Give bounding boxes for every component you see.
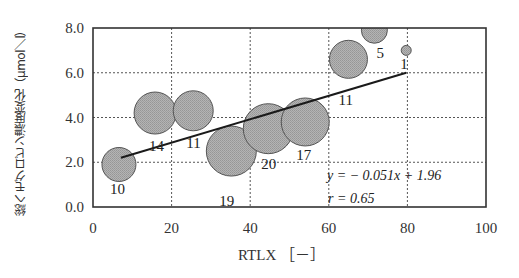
point-label: 19 [219,193,234,209]
bubble-point [173,91,213,131]
x-tick-label: 0 [89,220,97,236]
y-tick-label: 4.0 [65,110,84,126]
bubble-point [401,45,411,55]
regression-equation: y = − 0.051x + 1.96 [325,168,441,183]
y-tick-label: 2.0 [65,154,84,170]
x-tick-label: 40 [243,220,258,236]
point-label: 5 [376,45,384,61]
bubble-point [329,40,367,78]
bubble-point [361,17,387,43]
x-tick-label: 80 [400,220,415,236]
bubble-chart: 1014111920171151 0204060801000.02.04.06.… [0,0,519,278]
y-tick-label: 6.0 [65,65,84,81]
bubble-series [102,17,411,181]
y-axis-label: 総ヘモグロビン濃度変化（μmol／l） [12,28,34,216]
bubble-point [281,98,329,146]
y-tick-label: 8.0 [65,20,84,36]
regression-annotation: y = − 0.051x + 1.96 r = 0.65 [325,168,441,206]
x-tick-label: 100 [475,220,498,236]
point-label: 11 [338,92,352,108]
point-label: 1 [400,56,408,72]
y-tick-label: 0.0 [65,199,84,215]
x-tick-label: 60 [321,220,336,236]
point-label: 17 [296,147,312,163]
point-label: 20 [261,156,276,172]
correlation-coefficient: r = 0.65 [328,191,374,206]
bubble-point [134,92,176,134]
x-axis-label: RTLX ［－］ [238,243,325,264]
bubble-point [102,147,136,181]
point-label: 14 [149,138,165,154]
point-label: 10 [110,181,125,197]
point-label: 11 [186,135,200,151]
x-tick-label: 20 [164,220,179,236]
